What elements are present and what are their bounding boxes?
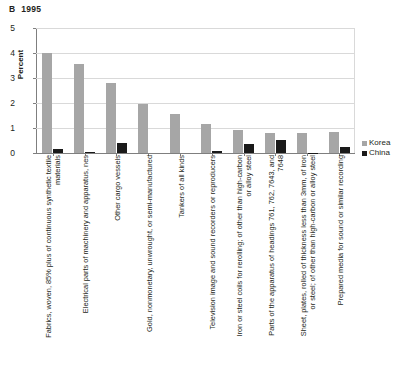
legend-label: China: [369, 148, 390, 158]
y-axis-tick-label: 5: [0, 24, 15, 33]
x-axis-label-cell: Sheet, plates, rolled of thickness less …: [292, 155, 324, 345]
x-axis-label: Tankers of all kinds: [176, 155, 185, 339]
panel-letter: B: [9, 4, 15, 14]
y-axis-tick-mark: [33, 53, 36, 54]
bar-korea: [138, 104, 148, 154]
bar-group: [260, 28, 292, 153]
bar-group: [101, 28, 133, 153]
bar-group: [132, 28, 164, 153]
bar-china: [276, 140, 286, 153]
x-axis-label-cell: Television image and sound recorders or …: [197, 155, 229, 345]
y-axis-title: Percent: [16, 37, 25, 93]
bar-china: [53, 149, 63, 153]
bar-korea: [170, 114, 180, 153]
x-axis-label-cell: Gold, nonmonetary, unwrought, or semi-ma…: [133, 155, 165, 345]
bar-china: [308, 153, 318, 154]
bar-group: [37, 28, 69, 153]
x-axis-label: Electrical parts of machinery and appara…: [80, 155, 89, 339]
legend-item: Korea: [362, 138, 390, 148]
x-axis-label: Parts of the apparatus of headings 761, …: [267, 155, 285, 339]
x-axis-label-cell: Iron or steel coils for rerolling; of ot…: [228, 155, 260, 345]
bar-china: [85, 152, 95, 153]
x-axis-label-cell: Other cargo vessels: [101, 155, 133, 345]
panel-year: 1995: [21, 4, 41, 14]
y-axis-tick-mark: [33, 28, 36, 29]
y-axis-tick-label: 4: [0, 49, 15, 58]
bar-group: [291, 28, 323, 153]
bar-group: [164, 28, 196, 153]
bar-korea: [329, 132, 339, 153]
bar-china: [117, 143, 127, 153]
y-axis-tick-label: 1: [0, 124, 15, 133]
y-axis-tick-mark: [33, 128, 36, 129]
x-axis-label-cell: Electrical parts of machinery and appara…: [69, 155, 101, 345]
panel-title: B1995: [9, 4, 41, 14]
x-axis-label: Iron or steel coils for rerolling; of ot…: [235, 155, 253, 339]
chart-legend: KoreaChina: [362, 138, 390, 158]
bar-korea: [233, 130, 243, 153]
x-axis-label-cell: Fabrics, woven, 85% plus of continuous s…: [37, 155, 69, 345]
y-axis-tick-mark: [33, 78, 36, 79]
bar-group: [196, 28, 228, 153]
y-axis-tick-label: 0: [0, 149, 15, 158]
x-axis-label-cell: Prepared media for sound or similar reco…: [324, 155, 356, 345]
x-axis-label-cell: Parts of the apparatus of headings 761, …: [260, 155, 292, 345]
chart-plot: 012345: [36, 28, 355, 153]
x-axis-label: Other cargo vessels: [112, 155, 121, 339]
legend-swatch-china: [362, 151, 367, 156]
bar-korea: [265, 133, 275, 154]
bar-korea: [42, 53, 52, 153]
x-axis-label: Prepared media for sound or similar reco…: [336, 155, 345, 339]
x-axis-label: Sheet, plates, rolled of thickness less …: [299, 155, 317, 339]
bar-korea: [297, 133, 307, 154]
legend-swatch-korea: [362, 141, 367, 146]
y-axis-tick-mark: [33, 153, 36, 154]
bar-china: [212, 151, 222, 153]
bar-china: [340, 147, 350, 153]
bar-korea: [106, 83, 116, 154]
x-axis-label: Television image and sound recorders or …: [208, 155, 217, 339]
x-axis-label: Gold, nonmonetary, unwrought, or semi-ma…: [144, 155, 153, 339]
bar-korea: [201, 124, 211, 154]
x-axis-labels: Fabrics, woven, 85% plus of continuous s…: [37, 155, 356, 345]
bar-korea: [74, 64, 84, 153]
legend-item: China: [362, 148, 390, 158]
y-axis-tick-mark: [33, 103, 36, 104]
x-axis-label-cell: Tankers of all kinds: [165, 155, 197, 345]
y-axis-tick-label: 3: [0, 74, 15, 83]
legend-label: Korea: [369, 138, 390, 148]
y-axis-tick-label: 2: [0, 99, 15, 108]
bar-group: [69, 28, 101, 153]
bar-group: [228, 28, 260, 153]
bar-groups: [37, 28, 355, 153]
x-axis-label: Fabrics, woven, 85% plus of continuous s…: [44, 155, 62, 339]
bar-china: [244, 144, 254, 153]
bar-group: [323, 28, 355, 153]
